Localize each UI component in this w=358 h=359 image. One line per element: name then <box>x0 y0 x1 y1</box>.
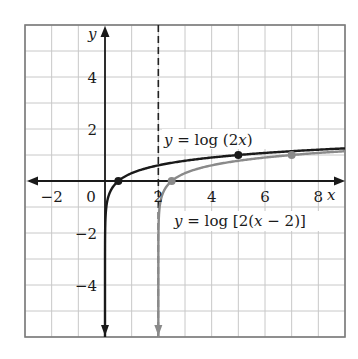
x-tick-label: 6 <box>260 188 270 206</box>
x-tick-label: −2 <box>41 188 63 206</box>
y-tick-label: 2 <box>87 121 97 139</box>
marked-point <box>234 151 242 159</box>
y-axis-label: y <box>87 25 97 43</box>
y-axis-arrow-up-icon <box>101 26 110 37</box>
x-tick-label: 2 <box>154 188 164 206</box>
curves <box>101 148 345 337</box>
curve-log-2x <box>105 148 345 337</box>
marked-point <box>288 151 296 159</box>
log-function-graph: −20246842−2−4 y x y = log (2x) y = log [… <box>0 0 358 359</box>
curve-arrow-down-icon <box>101 325 109 336</box>
x-tick-label: 4 <box>207 188 217 206</box>
marked-point <box>168 177 176 185</box>
x-tick-label: 8 <box>314 188 324 206</box>
curve2-label: y = log [2(x − 2)] <box>173 212 306 230</box>
x-axis-label: x <box>327 186 336 204</box>
curve-log-2x-minus-2 <box>158 151 345 337</box>
curve1-label: y = log (2x) <box>163 131 253 149</box>
y-tick-label: 4 <box>87 69 97 87</box>
marked-point <box>114 177 122 185</box>
y-tick-label: −2 <box>75 225 97 243</box>
x-axis-arrow-left-icon <box>27 177 38 186</box>
x-axis-arrow-right-icon <box>334 177 345 186</box>
curve-arrow-down-icon <box>154 325 162 336</box>
y-tick-label: −4 <box>75 277 97 295</box>
x-tick-label: 0 <box>86 188 96 206</box>
